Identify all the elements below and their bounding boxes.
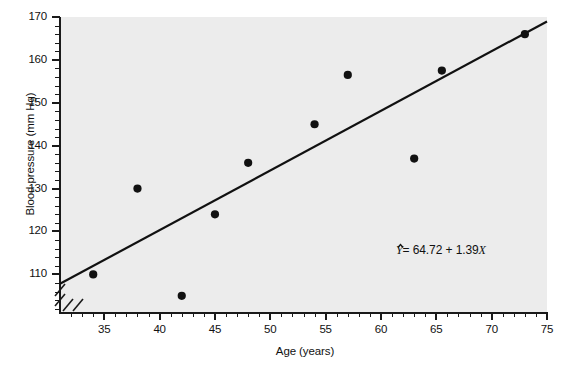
x-axis-break-mark xyxy=(63,299,73,311)
y-hat-caret-group xyxy=(398,245,403,248)
regression-line xyxy=(60,21,547,283)
data-point-2 xyxy=(178,292,186,300)
data-point-6 xyxy=(344,71,352,79)
data-point-5 xyxy=(310,120,318,128)
y-axis-break-mark xyxy=(55,284,65,296)
scatter-plot-figure: 110120130140150160170 354045505560657075… xyxy=(0,0,575,371)
data-points-group xyxy=(89,30,529,300)
data-point-4 xyxy=(244,159,252,167)
data-point-8 xyxy=(438,67,446,75)
data-point-7 xyxy=(410,154,418,162)
data-point-3 xyxy=(211,210,219,218)
data-point-0 xyxy=(89,270,97,278)
chart-overlay xyxy=(0,0,575,371)
y-axis-break-mark xyxy=(55,294,65,306)
axis-break-marks-group xyxy=(55,284,83,311)
regression-line-group xyxy=(60,21,547,283)
y-hat-caret xyxy=(398,245,403,248)
data-point-9 xyxy=(521,30,529,38)
x-axis-break-mark xyxy=(73,299,83,311)
data-point-1 xyxy=(133,184,141,192)
